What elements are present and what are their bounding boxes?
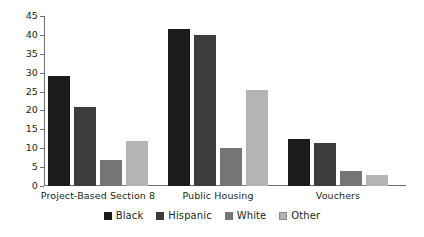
- bar-group: Vouchers: [288, 16, 396, 186]
- y-tick-label: 15: [4, 124, 38, 134]
- y-tick-mark: [40, 16, 44, 17]
- legend-swatch-icon: [104, 212, 112, 220]
- bar-black: [48, 76, 70, 186]
- legend-swatch-icon: [225, 212, 233, 220]
- y-tick-label: 10: [4, 143, 38, 153]
- bar-other: [126, 141, 148, 186]
- bar-chart: 45 40 35 30 25 20 15 10 5 0 Project-Base…: [0, 0, 424, 237]
- y-tick-mark: [40, 73, 44, 74]
- y-tick-label: 45: [4, 11, 38, 21]
- legend-label: White: [237, 210, 267, 221]
- y-tick-label: 30: [4, 68, 38, 78]
- bar-other: [366, 175, 388, 186]
- legend-swatch-icon: [279, 212, 287, 220]
- bar-other: [246, 90, 268, 186]
- y-axis-line: [44, 16, 45, 186]
- legend-label: Other: [291, 210, 320, 221]
- y-tick-mark: [40, 186, 44, 187]
- legend-item-white: White: [225, 210, 267, 221]
- y-tick-mark: [40, 35, 44, 36]
- bar-white: [340, 171, 362, 186]
- chart-legend: Black Hispanic White Other: [0, 210, 424, 221]
- y-tick-mark: [40, 129, 44, 130]
- legend-item-black: Black: [104, 210, 144, 221]
- y-tick-mark: [40, 148, 44, 149]
- y-tick-mark: [40, 54, 44, 55]
- x-axis-group-label: Vouchers: [264, 190, 412, 201]
- bar-black: [288, 139, 310, 186]
- bar-hispanic: [74, 107, 96, 186]
- y-tick-label: 5: [4, 162, 38, 172]
- y-tick-label: 25: [4, 87, 38, 97]
- y-tick-label: 35: [4, 49, 38, 59]
- legend-item-other: Other: [279, 210, 320, 221]
- y-tick-mark: [40, 92, 44, 93]
- bar-white: [220, 148, 242, 186]
- y-tick-label: 40: [4, 30, 38, 40]
- y-tick-label: 20: [4, 105, 38, 115]
- legend-swatch-icon: [156, 212, 164, 220]
- bar-group: Public Housing: [168, 16, 276, 186]
- bar-group: Project-Based Section 8: [48, 16, 156, 186]
- y-tick-mark: [40, 167, 44, 168]
- bar-white: [100, 160, 122, 186]
- bar-hispanic: [194, 35, 216, 186]
- bar-hispanic: [314, 143, 336, 186]
- y-axis-labels: 45 40 35 30 25 20 15 10 5 0: [0, 16, 38, 186]
- plot-area: Project-Based Section 8 Public Housing V…: [44, 16, 406, 186]
- y-tick-mark: [40, 110, 44, 111]
- bar-black: [168, 29, 190, 186]
- legend-label: Hispanic: [168, 210, 211, 221]
- legend-item-hispanic: Hispanic: [156, 210, 211, 221]
- legend-label: Black: [116, 210, 144, 221]
